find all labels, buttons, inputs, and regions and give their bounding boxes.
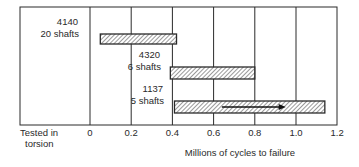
fatigue-life-chart: 414020 shafts43206 shafts11375 shafts 00… [0,0,359,167]
x-axis-label: Millions of cycles to failure [185,147,295,158]
bars: 414020 shafts43206 shafts11375 shafts [40,16,324,113]
x-tick-label: 0 [87,127,92,138]
bar-label: 4140 [57,16,78,27]
corner-label-line1: Tested in [20,127,58,138]
x-tick-labels: 00.20.40.60.81.01.2 [87,127,343,138]
x-tick-label: 1.2 [331,127,344,138]
corner-label-line2: torsion [25,138,54,149]
x-tick-label: 0.4 [166,127,179,138]
bar-label: 1137 [143,83,163,94]
x-tick-label: 0.2 [125,127,138,138]
x-tick-label: 0.8 [248,127,261,138]
bar-rect [100,34,176,44]
bar-sublabel: 20 shafts [40,28,79,39]
x-tick-label: 1.0 [289,127,302,138]
bar-4140: 414020 shafts [40,16,176,44]
x-tick-label: 0.6 [207,127,220,138]
bar-rect [170,67,254,79]
bar-label: 4320 [139,49,160,60]
bar-sublabel: 6 shafts [128,61,162,72]
bar-sublabel: 5 shafts [131,95,165,106]
bar-4320: 43206 shafts [128,49,255,79]
